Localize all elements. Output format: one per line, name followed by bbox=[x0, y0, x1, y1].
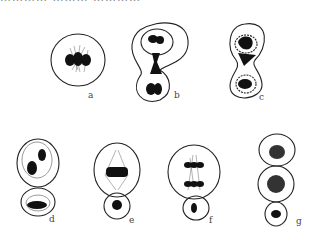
cell-d bbox=[17, 139, 59, 216]
panel-label-f: f bbox=[209, 215, 212, 225]
cell-division-diagram bbox=[0, 0, 315, 234]
cell-g bbox=[258, 134, 295, 226]
cell-a bbox=[51, 34, 105, 86]
panel-label-g: g bbox=[296, 216, 302, 226]
panel-label-c: c bbox=[259, 92, 264, 102]
panel-label-d: d bbox=[49, 214, 55, 224]
panel-label-a: a bbox=[88, 90, 93, 100]
cell-e bbox=[94, 143, 140, 219]
panel-label-e: e bbox=[129, 215, 134, 225]
cell-c bbox=[230, 24, 264, 98]
cell-f bbox=[168, 145, 220, 220]
panel-label-b: b bbox=[174, 90, 180, 100]
